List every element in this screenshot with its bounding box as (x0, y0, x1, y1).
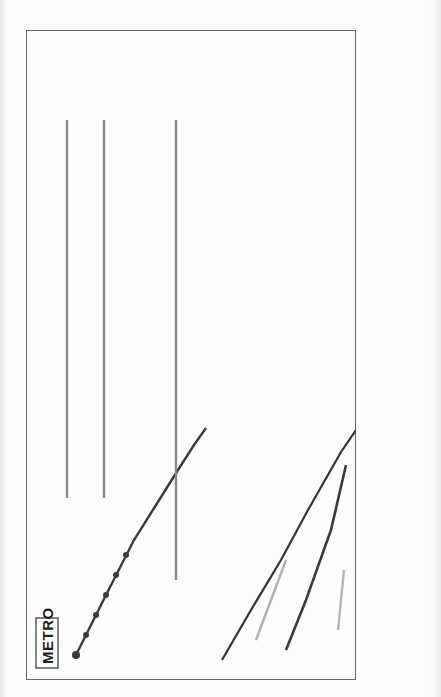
metro-map-svg[interactable]: METRO (26, 30, 356, 680)
map-border (27, 31, 356, 680)
metro-map-rotated: METRO (26, 30, 356, 680)
metro-logo: METRO (36, 607, 58, 668)
svg-text:METRO: METRO (39, 607, 56, 664)
metro-map-frame: METRO (26, 30, 356, 680)
page-edge-shadow-left (0, 0, 8, 697)
page-edge-shadow-right (431, 0, 441, 697)
map-page: METRO (0, 0, 441, 697)
